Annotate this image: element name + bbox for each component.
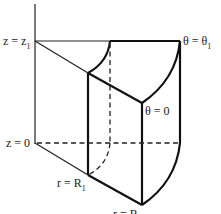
- hidden-bottom-inner-arc: [88, 143, 110, 175]
- top-inner-arc: [88, 41, 110, 73]
- top-outer-arc: [142, 41, 180, 103]
- cylindrical-sector-diagram: z = z1 z = 0 θ = θ1 θ = 0 r = R1 r = R2: [0, 0, 221, 214]
- label-z-bottom: z = 0: [6, 136, 30, 150]
- top-radial-thin: [35, 41, 88, 73]
- bottom-radial-thin: [35, 143, 88, 175]
- label-theta-zero: θ = 0: [145, 104, 170, 118]
- label-r-inner: r = R1: [57, 176, 86, 193]
- label-z-top: z = z1: [3, 34, 30, 51]
- bottom-radial-thick: [88, 175, 142, 205]
- top-radial-thick: [88, 73, 142, 103]
- bottom-outer-arc: [142, 143, 180, 205]
- label-theta-top: θ = θ1: [183, 34, 211, 51]
- label-r-outer: r = R2: [113, 207, 142, 214]
